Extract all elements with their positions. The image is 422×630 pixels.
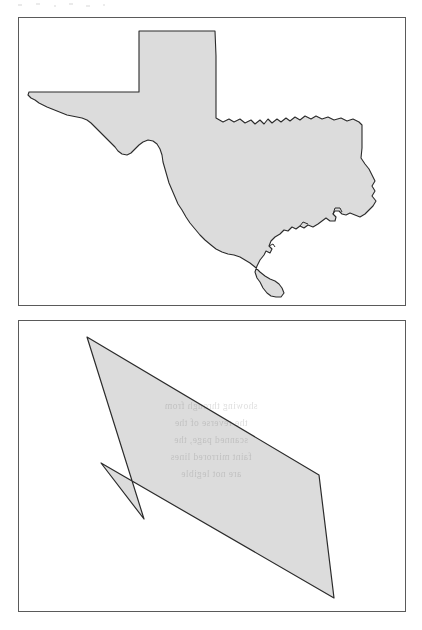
scanned-page: showing through from the reverse of the … — [0, 0, 422, 630]
scan-speckle-artifact — [8, 1, 128, 10]
convex-hull-svg — [19, 321, 405, 611]
texas-state-shape — [28, 31, 376, 297]
texas-state-outline-panel — [18, 17, 406, 306]
texas-map-svg — [19, 18, 405, 305]
convex-hull-panel — [18, 320, 406, 612]
convex-hull-shape — [87, 337, 334, 598]
